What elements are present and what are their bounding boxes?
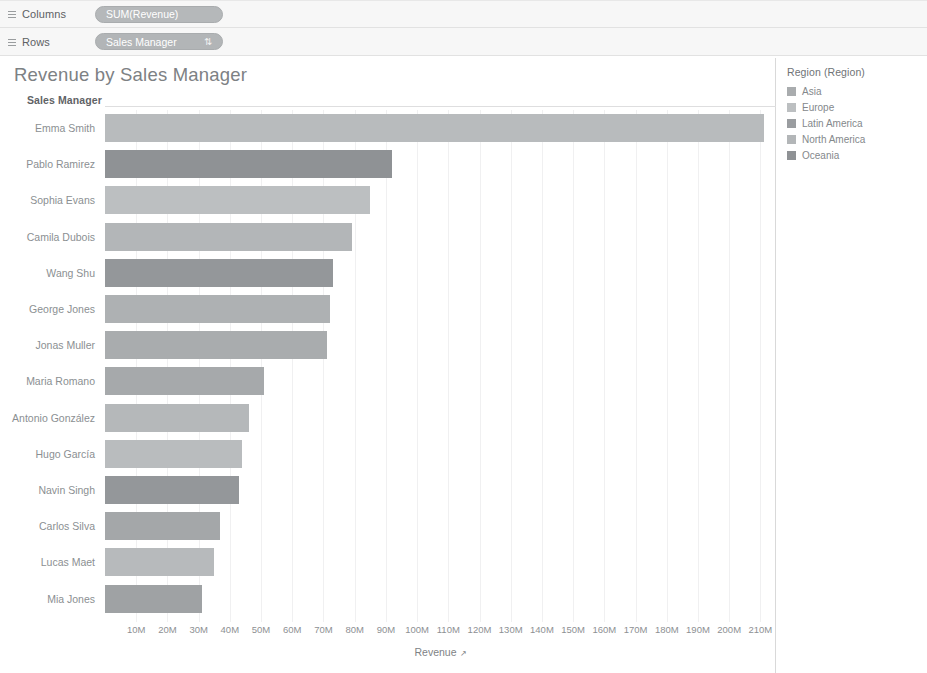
bar-row: Emma Smith (105, 110, 776, 146)
pill-sum-revenue[interactable]: SUM(Revenue) (95, 6, 223, 23)
x-axis-tick-label: 70M (314, 624, 332, 635)
sort-descending-icon[interactable]: ⇅ (204, 37, 213, 47)
category-label[interactable]: Mia Jones (0, 581, 95, 617)
bar-mark[interactable] (105, 331, 327, 359)
x-axis-tick-label: 170M (624, 624, 648, 635)
x-axis-tick-label: 120M (468, 624, 492, 635)
bar-mark[interactable] (105, 548, 214, 576)
bar-row: Carlos Silva (105, 508, 776, 544)
legend-item[interactable]: Asia (787, 84, 917, 99)
rows-shelf[interactable]: Rows Sales Manager ⇅ (0, 28, 927, 56)
grid-icon (8, 38, 16, 46)
category-label[interactable]: Carlos Silva (0, 508, 95, 544)
x-axis-tick-label: 50M (252, 624, 270, 635)
bar-mark[interactable] (105, 367, 264, 395)
x-axis-tick-label: 80M (345, 624, 363, 635)
bar-mark[interactable] (105, 476, 239, 504)
bar-mark[interactable] (105, 440, 242, 468)
row-field-header: Sales Manager (27, 94, 102, 106)
page-title: Revenue by Sales Manager (14, 64, 247, 86)
bar-mark[interactable] (105, 295, 330, 323)
x-axis-tick-label: 210M (749, 624, 773, 635)
x-axis-tick-label: 40M (221, 624, 239, 635)
shelf-container: Columns SUM(Revenue) Rows Sales Manager … (0, 0, 927, 56)
category-label[interactable]: George Jones (0, 291, 95, 327)
sort-ascending-icon[interactable]: ↗ (460, 649, 467, 658)
x-axis-tick-label: 30M (189, 624, 207, 635)
bar-row: Sophia Evans (105, 182, 776, 218)
legend-swatch-icon (787, 135, 796, 144)
bar-mark[interactable] (105, 150, 392, 178)
x-axis-tick-label: 110M (437, 624, 460, 635)
legend-swatch-icon (787, 103, 796, 112)
x-axis-tick-label: 150M (561, 624, 585, 635)
bar-row: Lucas Maet (105, 544, 776, 580)
rows-shelf-label: Rows (22, 36, 50, 48)
x-axis-tick-label: 190M (686, 624, 710, 635)
x-axis[interactable]: 10M20M30M40M50M60M70M80M90M100M110M120M1… (105, 624, 776, 644)
columns-shelf[interactable]: Columns SUM(Revenue) (0, 0, 927, 28)
bar-mark[interactable] (105, 259, 333, 287)
bar-row: Mia Jones (105, 581, 776, 617)
pill-sales-manager[interactable]: Sales Manager ⇅ (95, 33, 223, 50)
rows-shelf-label-wrap: Rows (0, 36, 95, 48)
bar-mark[interactable] (105, 186, 370, 214)
category-label[interactable]: Sophia Evans (0, 182, 95, 218)
legend-panel: Region (Region) AsiaEuropeLatin AmericaN… (777, 58, 927, 673)
bar-row: Pablo Ramirez (105, 146, 776, 182)
grid-icon (8, 10, 16, 18)
x-axis-tick-label: 140M (530, 624, 554, 635)
x-axis-title-label: Revenue (414, 646, 456, 658)
bar-row: Jonas Muller (105, 327, 776, 363)
category-label[interactable]: Pablo Ramirez (0, 146, 95, 182)
x-axis-tick-label: 130M (499, 624, 523, 635)
legend-item[interactable]: Latin America (787, 116, 917, 131)
category-label[interactable]: Jonas Muller (0, 327, 95, 363)
category-label[interactable]: Navin Singh (0, 472, 95, 508)
columns-shelf-label: Columns (22, 8, 66, 20)
category-label[interactable]: Antonio González (0, 400, 95, 436)
bar-mark[interactable] (105, 404, 249, 432)
category-label[interactable]: Maria Romano (0, 363, 95, 399)
legend-swatch-icon (787, 87, 796, 96)
legend-item-label: Asia (802, 86, 821, 97)
bar-row: Hugo García (105, 436, 776, 472)
legend-items: AsiaEuropeLatin AmericaNorth AmericaOcea… (787, 84, 917, 163)
legend-item[interactable]: North America (787, 132, 917, 147)
bar-row: Camila Dubois (105, 219, 776, 255)
x-axis-tick-label: 10M (127, 624, 145, 635)
legend-item[interactable]: Oceania (787, 148, 917, 163)
pill-sum-revenue-label: SUM(Revenue) (106, 8, 178, 20)
x-axis-tick-label: 20M (158, 624, 176, 635)
bar-row: Antonio González (105, 400, 776, 436)
bar-mark[interactable] (105, 223, 352, 251)
bar-mark[interactable] (105, 114, 764, 142)
plot-area: Emma SmithPablo RamirezSophia EvansCamil… (105, 110, 776, 622)
category-label[interactable]: Camila Dubois (0, 219, 95, 255)
columns-shelf-label-wrap: Columns (0, 8, 95, 20)
legend-title: Region (Region) (787, 66, 917, 78)
bar-mark[interactable] (105, 585, 202, 613)
x-axis-tick-label: 90M (377, 624, 395, 635)
legend-swatch-icon (787, 119, 796, 128)
bar-mark[interactable] (105, 512, 220, 540)
legend-item[interactable]: Europe (787, 100, 917, 115)
header-divider (105, 106, 776, 107)
legend-item-label: Oceania (802, 150, 839, 161)
bar-row: Navin Singh (105, 472, 776, 508)
bar-row: George Jones (105, 291, 776, 327)
x-axis-tick-label: 200M (717, 624, 741, 635)
x-axis-title[interactable]: Revenue↗ (105, 646, 776, 658)
x-axis-tick-label: 180M (655, 624, 679, 635)
category-label[interactable]: Lucas Maet (0, 544, 95, 580)
x-axis-tick-label: 100M (405, 624, 429, 635)
legend-item-label: Europe (802, 102, 834, 113)
category-label[interactable]: Emma Smith (0, 110, 95, 146)
category-label[interactable]: Hugo García (0, 436, 95, 472)
bar-row: Wang Shu (105, 255, 776, 291)
legend-item-label: Latin America (802, 118, 863, 129)
bar-row: Maria Romano (105, 363, 776, 399)
x-axis-tick-label: 160M (592, 624, 616, 635)
category-label[interactable]: Wang Shu (0, 255, 95, 291)
legend-swatch-icon (787, 151, 796, 160)
